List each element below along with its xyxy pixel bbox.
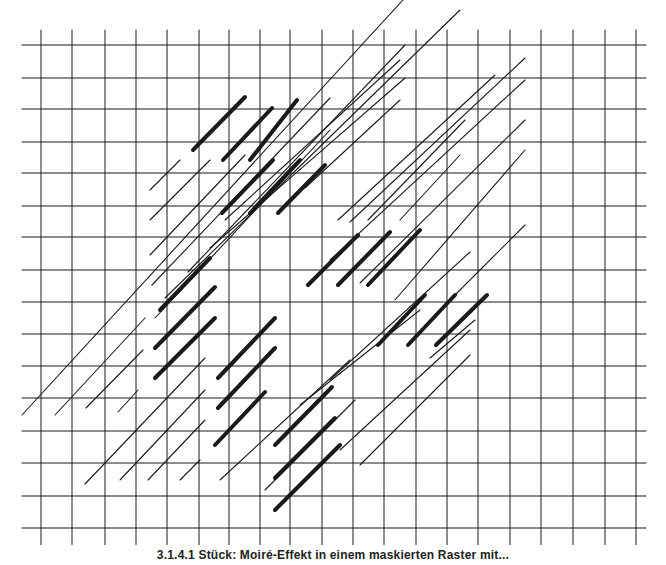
thick-segment [155,287,215,348]
moire-grid-figure [0,0,666,545]
thick-segment [368,230,420,285]
thin-segment [120,390,205,480]
thick-segment [223,108,272,160]
thick-segment [250,160,300,213]
thick-segment [275,418,335,478]
thick-segment [275,445,340,510]
thin-segment [430,320,475,358]
thin-segment [330,80,525,260]
thin-segment [86,350,143,408]
thick-segment [155,318,215,378]
thin-segment [148,420,205,480]
thick-diagonal-segments [155,97,487,510]
thin-segment [340,330,470,450]
thick-segment [218,318,275,378]
thin-segment [22,0,403,415]
thin-segment [225,60,400,220]
thin-diagonal-segments [22,0,525,490]
thin-segment [300,310,420,405]
thick-segment [308,235,358,285]
thick-segment [218,348,275,408]
thin-segment [118,390,138,412]
figure-caption: 3.1.4.1 Stück: Moiré-Effekt in einem mas… [0,548,666,562]
thin-segment [188,45,405,272]
thin-segment [360,120,525,283]
thin-segment [85,358,205,484]
thick-segment [215,392,265,445]
thin-segment [150,160,210,220]
thin-segment [150,160,180,190]
thick-segment [338,232,390,285]
grid-lines [22,30,646,545]
thin-segment [350,58,525,222]
thick-segment [275,387,332,445]
thin-segment [360,355,470,465]
thick-segment [222,160,273,213]
